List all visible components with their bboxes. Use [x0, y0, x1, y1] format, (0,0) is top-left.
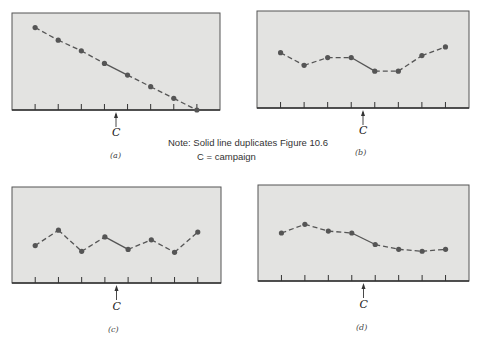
panel-a-data-point	[148, 84, 153, 89]
panel-b-data-point	[396, 69, 401, 74]
panel-a-plot-area	[12, 13, 220, 110]
panel-a-data-point	[33, 25, 38, 30]
panel-a-campaign-label: C	[112, 126, 121, 139]
panel-d-data-point	[326, 228, 331, 233]
panel-b-data-point	[302, 63, 307, 68]
panel-c-arrowhead-icon	[115, 285, 119, 291]
panel-d-data-point	[420, 249, 425, 254]
panel-a-data-point	[171, 96, 176, 101]
panel-b-campaign-label: C	[359, 124, 368, 137]
panel-d: C(d)	[258, 185, 469, 332]
panel-a-data-point	[79, 48, 84, 53]
panel-d-data-point	[373, 242, 378, 247]
panel-b-data-point	[278, 50, 283, 55]
panel-d-campaign-label: C	[360, 298, 369, 311]
panel-d-data-point	[443, 247, 448, 252]
panel-d-arrowhead-icon	[362, 283, 366, 289]
panel-a-arrowhead-icon	[114, 112, 118, 118]
panel-c-campaign-label: C	[113, 300, 122, 313]
panel-a-data-point	[125, 72, 130, 77]
panel-c-data-point	[195, 230, 200, 235]
panel-a-data-point	[56, 38, 61, 43]
panel-b-plot-area	[257, 11, 469, 108]
panel-b-label: (b)	[355, 148, 366, 157]
panel-b-data-point	[419, 53, 424, 58]
panel-b-data-point	[443, 44, 448, 49]
panel-d-label: (d)	[356, 323, 367, 332]
panel-c-data-point	[149, 237, 154, 242]
panel-b-data-point	[325, 55, 330, 60]
panel-d-data-point	[302, 222, 307, 227]
panel-a-data-point	[194, 107, 199, 112]
figure-note: Note: Solid line duplicates Figure 10.6	[168, 137, 328, 148]
panel-c-data-point	[172, 250, 177, 255]
panel-d-plot-area	[258, 185, 469, 281]
panel-b-arrowhead-icon	[361, 110, 365, 116]
panel-d-data-point	[279, 230, 284, 235]
panel-c-data-point	[33, 243, 38, 248]
panel-b: C(b)	[257, 11, 469, 157]
panel-c-data-point	[126, 247, 131, 252]
panel-d-data-point	[396, 247, 401, 252]
panel-c-label: (c)	[108, 325, 119, 334]
panel-c-plot-area	[12, 187, 221, 283]
panel-a-data-point	[102, 61, 107, 66]
figure-legend-c: C = campaign	[197, 151, 256, 162]
panel-c-data-point	[79, 249, 84, 254]
panel-b-data-point	[372, 69, 377, 74]
panel-c: C(c)	[12, 187, 221, 334]
panel-d-data-point	[349, 230, 354, 235]
panel-c-data-point	[56, 228, 61, 233]
campaign-effect-figure: C(a)C(b)C(c)C(d) Note: Solid line duplic…	[0, 0, 479, 345]
panel-c-data-point	[102, 234, 107, 239]
panel-a-label: (a)	[110, 151, 121, 160]
panel-b-data-point	[349, 55, 354, 60]
